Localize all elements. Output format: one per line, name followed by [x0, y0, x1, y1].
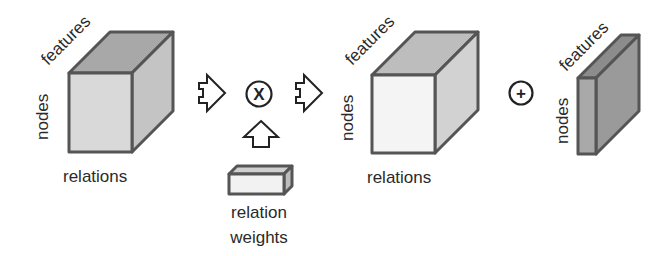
relation-weights-box	[229, 166, 292, 194]
relations-label: relations	[63, 167, 127, 186]
cube-front-face	[372, 75, 435, 153]
add-operator: +	[510, 82, 533, 105]
nodes-label: nodes	[553, 98, 572, 144]
nodes-label: nodes	[338, 95, 357, 141]
cube-front-face	[69, 73, 132, 152]
weights-front-face	[229, 174, 284, 194]
add-symbol: +	[516, 84, 526, 103]
relation-weights-label-line1: relation	[231, 203, 287, 222]
diagram-canvas: features nodes relations X relation weig…	[0, 0, 671, 256]
relations-label: relations	[367, 168, 431, 187]
arrow-right-icon	[296, 75, 322, 111]
multiply-symbol: X	[253, 85, 265, 104]
arrow-right-icon	[199, 75, 225, 111]
nodes-label: nodes	[33, 94, 52, 140]
multiply-operator: X	[247, 82, 272, 107]
relation-weights-label-line2: weights	[229, 228, 288, 247]
slab-front-face	[578, 78, 596, 154]
arrow-up-icon	[244, 121, 278, 147]
output-tensor-cube	[372, 32, 478, 153]
input-tensor-cube	[69, 32, 173, 152]
